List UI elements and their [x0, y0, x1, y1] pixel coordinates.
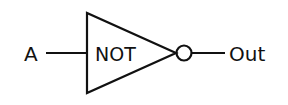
input-label: A	[24, 42, 38, 66]
output-label: Out	[229, 42, 265, 66]
not-gate-diagram: A NOT Out	[0, 0, 288, 105]
inversion-bubble	[177, 46, 192, 61]
gate-label: NOT	[95, 43, 136, 65]
